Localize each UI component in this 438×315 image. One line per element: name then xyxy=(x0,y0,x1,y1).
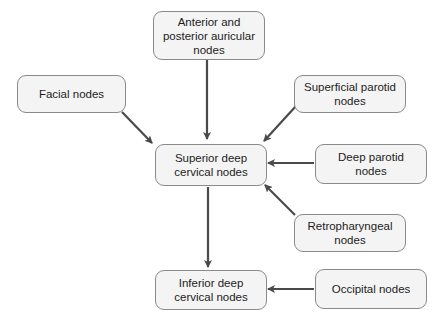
node-label: Superior deep cervical nodes xyxy=(162,151,260,179)
node-label: Retropharyngeal nodes xyxy=(301,219,399,247)
node-superficial-parotid: Superficial parotid nodes xyxy=(294,75,406,113)
node-label: Facial nodes xyxy=(39,87,104,101)
node-facial: Facial nodes xyxy=(17,75,126,113)
node-label: Inferior deep cervical nodes xyxy=(162,276,260,304)
node-retropharyngeal: Retropharyngeal nodes xyxy=(294,214,406,252)
node-label: Deep parotid nodes xyxy=(322,150,420,178)
arrow-superficial-parotid-to-superior xyxy=(264,106,296,141)
arrow-retropharyngeal-to-superior xyxy=(265,185,295,215)
node-label: Anterior and posterior auricular nodes xyxy=(160,15,258,57)
node-occipital: Occipital nodes xyxy=(315,269,427,309)
node-inferior-deep-cervical: Inferior deep cervical nodes xyxy=(155,270,267,310)
node-superior-deep-cervical: Superior deep cervical nodes xyxy=(155,144,267,186)
node-label: Occipital nodes xyxy=(332,282,411,296)
node-auricular: Anterior and posterior auricular nodes xyxy=(153,11,265,60)
node-deep-parotid: Deep parotid nodes xyxy=(315,144,427,184)
node-label: Superficial parotid nodes xyxy=(301,80,399,108)
arrow-facial-to-superior xyxy=(122,112,152,143)
